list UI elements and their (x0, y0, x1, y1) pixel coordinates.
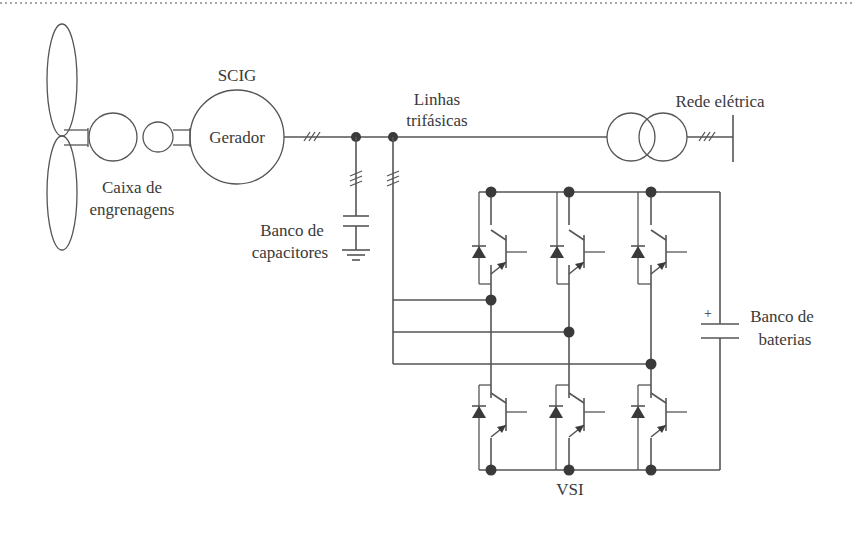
junction-node (486, 465, 497, 476)
three-phase-lines-label: Linhas (414, 90, 460, 109)
gearbox-label: Caixa de (102, 178, 162, 197)
grid-label: Rede elétrica (675, 92, 765, 111)
capacitor-bank-label: capacitores (252, 243, 328, 262)
gearbox-icon (89, 113, 190, 161)
igbt-switch-icon (484, 393, 527, 438)
generator-label: Gerador (209, 128, 265, 147)
junction-node (646, 359, 657, 370)
igbt-switch-icon (644, 393, 687, 438)
three-phase-lines-label: trifásicas (406, 111, 467, 130)
junction-node (486, 187, 497, 198)
turbine-shaft (64, 128, 88, 147)
three-phase-mark-icon (387, 171, 399, 186)
junction-node (564, 465, 575, 476)
junction-node (646, 187, 657, 198)
junction-node (486, 295, 497, 306)
junction-node (564, 187, 575, 198)
generator-type-label: SCIG (218, 66, 257, 85)
wind-energy-system-diagram: Caixa de engrenagens SCIG Gerador Linhas… (0, 0, 855, 533)
gearbox-label: engrenagens (90, 200, 175, 219)
ground-icon (342, 250, 370, 260)
three-phase-mark-icon (350, 171, 362, 186)
battery-bank-label: Banco de (750, 307, 814, 326)
battery-polarity-label: + (704, 306, 712, 321)
three-phase-mark-icon (699, 132, 715, 141)
junction-node (646, 465, 657, 476)
battery-bank-label: baterias (759, 330, 812, 349)
igbt-switch-icon (562, 393, 605, 438)
battery-icon (701, 324, 739, 338)
capacitor-bank-label: Banco de (260, 221, 324, 240)
turbine-blades-icon (47, 24, 77, 250)
transformer-icon (607, 113, 687, 161)
junction-node (564, 327, 575, 338)
capacitor-icon (343, 216, 369, 250)
inverter-label: VSI (556, 480, 584, 499)
three-phase-mark-icon (304, 132, 320, 141)
